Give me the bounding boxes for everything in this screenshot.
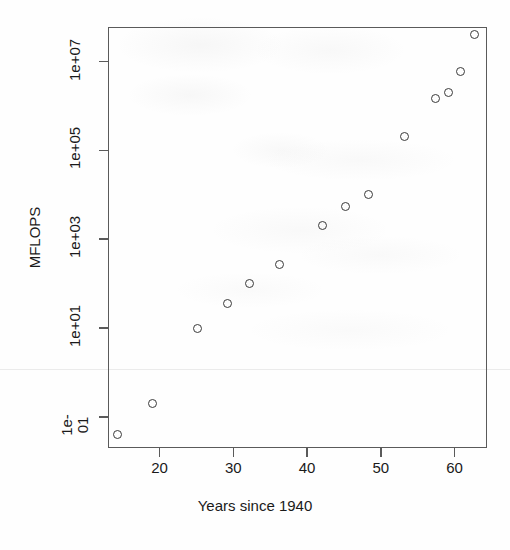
y-axis-title: MFLOPS — [26, 168, 43, 308]
y-axis-tick — [99, 238, 108, 240]
y-axis-tick-label: 1e+07 — [67, 43, 83, 81]
x-axis-tick — [380, 448, 382, 457]
data-point-marker — [341, 202, 350, 211]
y-axis-tick-label: 1e-01 — [59, 406, 91, 444]
y-axis-tick — [99, 150, 108, 152]
data-point-marker — [431, 94, 440, 103]
y-axis-tick — [99, 327, 108, 329]
x-axis-tick-label: 60 — [435, 459, 475, 477]
x-axis-tick — [159, 448, 161, 457]
x-axis-tick-label: 20 — [140, 459, 180, 477]
plot-area — [108, 27, 487, 448]
x-axis-tick — [306, 448, 308, 457]
scatter-chart-figure: 2030405060 1e-011e+011e+031e+051e+07 Yea… — [0, 0, 510, 550]
y-axis-tick-label: 1e+03 — [67, 220, 83, 258]
y-axis-tick — [99, 61, 108, 63]
x-axis-tick-label: 50 — [361, 459, 401, 477]
x-axis-title: Years since 1940 — [0, 497, 510, 514]
data-point-marker — [275, 260, 284, 269]
y-axis-tick-label: 1e+05 — [67, 131, 83, 169]
x-axis-tick — [233, 448, 235, 457]
data-point-marker — [456, 67, 465, 76]
x-axis-tick-label: 40 — [287, 459, 327, 477]
data-point-marker — [400, 132, 409, 141]
x-axis-tick-label: 30 — [213, 459, 253, 477]
y-axis-tick — [99, 416, 108, 418]
x-axis-tick — [454, 448, 456, 457]
y-axis-tick-label: 1e+01 — [67, 309, 83, 347]
